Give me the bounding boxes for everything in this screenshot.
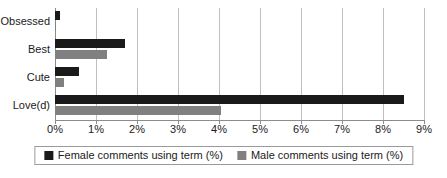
bar-group xyxy=(55,92,424,120)
bar-group xyxy=(55,8,424,36)
chart-legend: Female comments using term (%) Male comm… xyxy=(34,146,413,165)
bar-male[interactable] xyxy=(55,22,56,31)
gridline-9 xyxy=(424,8,425,120)
bar-male[interactable] xyxy=(55,78,64,87)
x-axis-label-4: 4% xyxy=(211,124,227,135)
x-axis-label-9: 9% xyxy=(416,124,432,135)
legend-item-male[interactable]: Male comments using term (%) xyxy=(237,150,403,161)
x-axis-label-6: 6% xyxy=(293,124,309,135)
bar-male[interactable] xyxy=(55,106,221,115)
x-axis-label-5: 5% xyxy=(252,124,268,135)
bar-female[interactable] xyxy=(55,39,125,48)
bar-male[interactable] xyxy=(55,50,107,59)
x-axis-label-3: 3% xyxy=(170,124,186,135)
x-axis-label-7: 7% xyxy=(334,124,350,135)
bar-group xyxy=(55,36,424,64)
legend-swatch-male-icon xyxy=(237,151,246,160)
x-axis-label-2: 2% xyxy=(129,124,145,135)
legend-swatch-female-icon xyxy=(44,151,53,160)
bar-female[interactable] xyxy=(55,11,60,20)
y-axis-label-best: Best xyxy=(0,44,50,55)
bar-group xyxy=(55,64,424,92)
legend-label-male: Male comments using term (%) xyxy=(251,150,403,161)
x-axis-line xyxy=(55,120,424,121)
y-axis-label-cute: Cute xyxy=(0,72,50,83)
x-axis-label-1: 1% xyxy=(88,124,104,135)
plot-area xyxy=(55,8,424,120)
y-axis-label-love-d: Love(d) xyxy=(0,100,50,111)
legend-label-female: Female comments using term (%) xyxy=(58,150,223,161)
x-axis-label-0: 0% xyxy=(47,124,63,135)
bar-chart: ObsessedBestCuteLove(d) 0%1%2%3%4%5%6%7%… xyxy=(0,0,447,178)
bar-female[interactable] xyxy=(55,95,404,104)
x-axis-label-8: 8% xyxy=(375,124,391,135)
bar-female[interactable] xyxy=(55,67,79,76)
legend-item-female[interactable]: Female comments using term (%) xyxy=(44,150,223,161)
y-axis-label-obsessed: Obsessed xyxy=(0,16,50,27)
